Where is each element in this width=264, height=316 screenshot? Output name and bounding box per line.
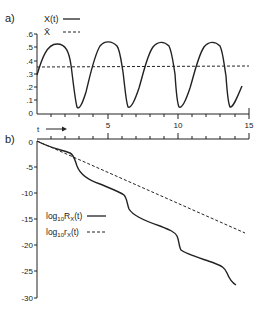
panel-b: b) — [5, 133, 249, 303]
figure: a) X(t) X̄ 0 .1 .2 .3 .4 .5 .6 — [0, 0, 264, 316]
svg-text:.1: .1 — [26, 96, 33, 105]
x-tick-10: 10 — [174, 121, 183, 130]
svg-text:0: 0 — [29, 138, 34, 147]
legend-b: log10RX(t) log10rX(t) — [46, 211, 106, 238]
svg-text:-25: -25 — [21, 267, 33, 276]
mean-line — [37, 66, 249, 67]
x-t-curve — [37, 42, 242, 108]
y-tick-labels-a: 0 .1 .2 .3 .4 .5 .6 — [26, 30, 33, 118]
x-ticks-b — [51, 133, 249, 139]
panel-a: a) X(t) X̄ 0 .1 .2 .3 .4 .5 .6 — [5, 12, 254, 134]
legend-xbar-label: X̄ — [44, 27, 50, 37]
svg-text:.4: .4 — [26, 57, 33, 66]
svg-text:-20: -20 — [21, 241, 33, 250]
svg-text:-5: -5 — [26, 163, 34, 172]
svg-text:log10rX(t): log10rX(t) — [46, 227, 79, 238]
svg-text:.2: .2 — [26, 83, 33, 92]
svg-text:log10RX(t): log10RX(t) — [46, 211, 82, 222]
svg-text:-30: -30 — [21, 294, 33, 303]
panel-b-label: b) — [5, 133, 15, 145]
x-tick-15: 15 — [245, 121, 254, 130]
svg-text:.6: .6 — [26, 30, 33, 39]
arrow-head-icon — [62, 127, 67, 132]
t-label: t — [37, 125, 40, 134]
svg-text:-10: -10 — [21, 189, 33, 198]
svg-text:.3: .3 — [26, 70, 33, 79]
x-tick-5: 5 — [106, 121, 111, 130]
y-tick-labels-b: 0 -5 -10 -15 -20 -25 -30 — [21, 138, 33, 303]
legend-x-label: X(t) — [44, 14, 59, 24]
svg-text:-15: -15 — [21, 215, 33, 224]
panel-a-label: a) — [5, 12, 15, 24]
svg-text:.5: .5 — [26, 43, 33, 52]
svg-text:0: 0 — [29, 109, 34, 118]
